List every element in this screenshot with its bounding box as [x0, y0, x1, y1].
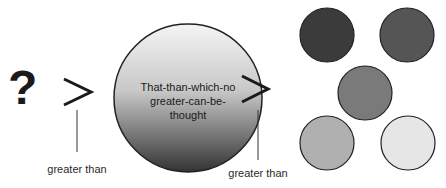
small-circle-3 — [338, 66, 392, 120]
concept-line-1: That-than-which-no — [114, 80, 262, 94]
greater-than-label-2: greater than — [228, 167, 287, 179]
small-circle-1 — [300, 8, 354, 62]
central-concept-text: That-than-which-no greater-can-be- thoug… — [114, 80, 262, 122]
greater-than-icon — [64, 79, 91, 105]
greater-than-label-1: greater than — [47, 163, 106, 175]
small-circle-5 — [381, 116, 435, 170]
concept-line-2: greater-can-be- — [114, 94, 262, 108]
concept-line-3: thought — [114, 108, 262, 122]
small-circle-4 — [300, 116, 354, 170]
small-circle-2 — [380, 8, 434, 62]
